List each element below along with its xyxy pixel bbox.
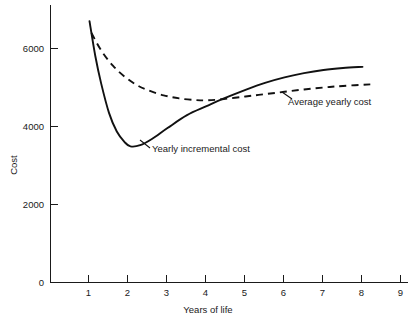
x-tick-label-1: 1 [86, 287, 91, 298]
chart-figure: 6000 4000 2000 0 1 2 3 4 5 6 7 8 9 Years… [0, 0, 416, 320]
series-line-yearly-incremental-cost [90, 21, 363, 146]
x-tick-label-7: 7 [320, 287, 325, 298]
series-line-average-yearly-cost [91, 33, 370, 101]
y-axis-title: Cost [8, 155, 19, 175]
x-tick-label-2: 2 [125, 287, 130, 298]
x-axis-ticks [89, 275, 401, 283]
x-tick-label-5: 5 [242, 287, 247, 298]
y-tick-label-2000: 2000 [23, 199, 44, 210]
x-tick-label-9: 9 [398, 287, 403, 298]
series-annotation-incremental: Yearly incremental cost [152, 143, 250, 154]
y-tick-label-6000: 6000 [23, 43, 44, 54]
y-tick-label-0: 0 [39, 277, 44, 288]
y-axis-ticks [51, 49, 59, 205]
x-axis-title: Years of life [183, 304, 232, 315]
series-annotation-average: Average yearly cost [288, 96, 372, 107]
y-tick-label-4000: 4000 [23, 121, 44, 132]
x-tick-label-8: 8 [359, 287, 364, 298]
x-tick-label-3: 3 [164, 287, 169, 298]
x-tick-label-4: 4 [203, 287, 208, 298]
x-tick-label-6: 6 [281, 287, 286, 298]
cost-vs-years-line-chart: 6000 4000 2000 0 1 2 3 4 5 6 7 8 9 Years… [0, 0, 416, 320]
